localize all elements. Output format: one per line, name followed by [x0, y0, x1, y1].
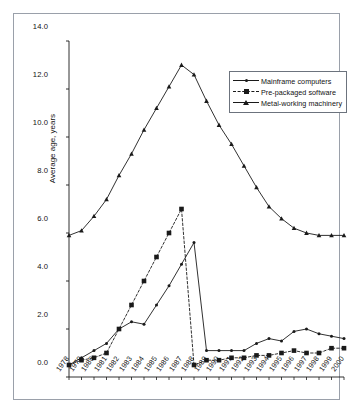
y-tick-label: 10.0 — [14, 119, 48, 127]
legend-label: Metal-working machinery — [261, 99, 342, 108]
y-axis-label: Average age, years — [48, 89, 57, 209]
legend-item-metal-working-machinery: Metal-working machinery — [233, 98, 342, 108]
chart-frame: Average age, years Mainframe computers P… — [13, 13, 340, 400]
y-tick-label: 6.0 — [14, 215, 48, 223]
y-tick-label: 8.0 — [14, 167, 48, 175]
chart-legend: Mainframe computers Pre-packaged softwar… — [229, 71, 347, 113]
legend-label: Pre-packaged software — [261, 88, 336, 97]
legend-item-pre-packaged-software: Pre-packaged software — [233, 87, 342, 97]
legend-key-dashed-square — [233, 87, 259, 97]
y-tick-label: 12.0 — [14, 71, 48, 79]
y-tick-label: 0.0 — [14, 359, 48, 367]
y-tick-label: 14.0 — [14, 23, 48, 31]
y-tick-label: 4.0 — [14, 263, 48, 271]
legend-label: Mainframe computers — [261, 77, 331, 86]
legend-item-mainframe-computers: Mainframe computers — [233, 76, 342, 86]
legend-key-line-dot — [233, 76, 259, 86]
y-tick-label: 2.0 — [14, 311, 48, 319]
chart-figure: Average age, years Mainframe computers P… — [0, 0, 358, 417]
legend-key-line-triangle — [233, 98, 259, 108]
